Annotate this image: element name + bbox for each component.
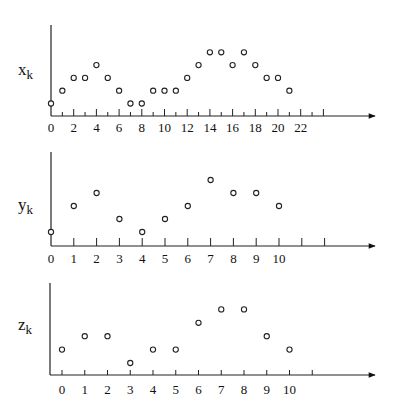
data-point [230, 63, 235, 68]
data-point [151, 88, 156, 93]
sequence-plots: xk 0246810121416182022 yk 012345678910 z… [0, 0, 395, 420]
data-point [173, 88, 178, 93]
tick-label: 5 [173, 382, 180, 397]
data-point [287, 88, 292, 93]
ylabel-yk: yk [18, 195, 34, 217]
tick-label: 5 [162, 251, 169, 266]
tick-label: 8 [139, 120, 146, 135]
data-point [254, 190, 259, 195]
tick-label: 8 [230, 251, 237, 266]
tick-label: 3 [127, 382, 134, 397]
tick-label: 10 [158, 120, 171, 135]
data-point [117, 216, 122, 221]
data-point [219, 50, 224, 55]
data-point [241, 307, 246, 312]
ylabel-xk: xk [18, 60, 34, 82]
tick-label: 16 [226, 120, 240, 135]
tick-label: 0 [48, 251, 55, 266]
data-point [185, 75, 190, 80]
data-point [185, 203, 190, 208]
tick-label: 4 [150, 382, 157, 397]
points-zk [59, 307, 292, 366]
tick-label: 12 [181, 120, 194, 135]
data-point [162, 216, 167, 221]
tick-label: 2 [70, 120, 77, 135]
data-point [128, 360, 133, 365]
tick-label: 2 [104, 382, 111, 397]
tick-label: 8 [241, 382, 248, 397]
tick-label: 9 [264, 382, 271, 397]
data-point [264, 334, 269, 339]
ylabel-zk: zk [18, 315, 33, 337]
tick-label: 7 [218, 382, 225, 397]
data-point [139, 101, 144, 106]
data-point [150, 347, 155, 352]
tick-label: 6 [116, 120, 123, 135]
data-point [82, 75, 87, 80]
data-point [231, 190, 236, 195]
data-point [219, 307, 224, 312]
data-point [275, 75, 280, 80]
tick-label: 0 [48, 120, 55, 135]
data-point [71, 75, 76, 80]
data-point [208, 177, 213, 182]
data-point [276, 203, 281, 208]
data-point [128, 101, 133, 106]
data-point [140, 229, 145, 234]
data-point [264, 75, 269, 80]
data-point [59, 347, 64, 352]
tick-label: 22 [294, 120, 307, 135]
tick-label: 20 [272, 120, 285, 135]
tick-label: 10 [273, 251, 286, 266]
data-point [48, 101, 53, 106]
points-yk [48, 177, 281, 234]
data-point [105, 334, 110, 339]
ticks-zk: 012345678910 [59, 370, 313, 397]
tick-label: 14 [203, 120, 217, 135]
data-point [253, 63, 258, 68]
tick-label: 10 [283, 382, 296, 397]
ticks-yk: 012345678910 [48, 238, 325, 266]
tick-label: 0 [59, 382, 66, 397]
data-point [94, 63, 99, 68]
tick-label: 9 [253, 251, 260, 266]
tick-label: 18 [249, 120, 262, 135]
tick-label: 1 [71, 251, 78, 266]
data-point [94, 190, 99, 195]
data-point [48, 229, 53, 234]
data-point [82, 334, 87, 339]
data-point [173, 347, 178, 352]
data-point [241, 50, 246, 55]
data-point [105, 75, 110, 80]
data-point [71, 203, 76, 208]
tick-label: 4 [139, 251, 146, 266]
plot-xk: xk 0246810121416182022 [18, 25, 375, 135]
tick-label: 1 [82, 382, 89, 397]
plot-zk: zk 012345678910 [18, 283, 375, 397]
tick-label: 6 [195, 382, 202, 397]
data-point [207, 50, 212, 55]
points-xk [48, 50, 292, 106]
tick-label: 3 [116, 251, 123, 266]
ticks-xk: 0246810121416182022 [48, 109, 324, 135]
data-point [287, 347, 292, 352]
data-point [196, 63, 201, 68]
data-point [117, 88, 122, 93]
plot-yk: yk 012345678910 [18, 152, 375, 266]
tick-label: 6 [185, 251, 192, 266]
tick-label: 7 [207, 251, 214, 266]
tick-label: 4 [93, 120, 100, 135]
tick-label: 2 [93, 251, 100, 266]
data-point [60, 88, 65, 93]
data-point [162, 88, 167, 93]
data-point [196, 320, 201, 325]
